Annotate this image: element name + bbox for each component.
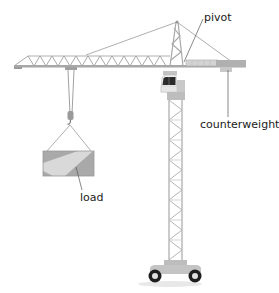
slings bbox=[47, 125, 91, 151]
pivot-label: pivot bbox=[204, 12, 232, 23]
pivot-leader bbox=[184, 19, 203, 62]
tower-top bbox=[170, 21, 183, 67]
counterweight-label: counterweight bbox=[200, 119, 279, 130]
counterweight-block bbox=[216, 60, 246, 72]
load-box bbox=[43, 151, 94, 176]
tower-mast bbox=[167, 92, 185, 262]
trolley bbox=[65, 67, 77, 114]
operator-cab bbox=[161, 71, 185, 92]
leader-lines bbox=[76, 19, 228, 190]
load-label: load bbox=[80, 192, 104, 203]
crane-diagram bbox=[0, 0, 279, 293]
hook-block bbox=[68, 111, 74, 124]
jib bbox=[14, 56, 246, 69]
